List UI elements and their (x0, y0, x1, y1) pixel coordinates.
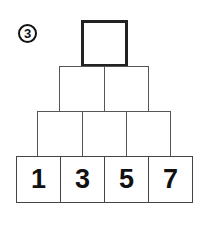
pyramid-base-cell: 3 (60, 156, 105, 203)
pyramid-row2-cell[interactable] (59, 66, 105, 112)
problem-number-badge: 3 (18, 24, 37, 43)
pyramid-row3-cell[interactable] (37, 111, 83, 157)
pyramid-base-cell: 7 (148, 156, 193, 203)
pyramid-row3-cell[interactable] (82, 111, 127, 157)
pyramid-base-cell: 1 (16, 156, 61, 203)
pyramid-row3-cell[interactable] (126, 111, 171, 157)
pyramid-top-answer-box[interactable] (81, 20, 128, 67)
pyramid-base-cell: 5 (104, 156, 149, 203)
pyramid-row2-cell[interactable] (104, 66, 149, 112)
